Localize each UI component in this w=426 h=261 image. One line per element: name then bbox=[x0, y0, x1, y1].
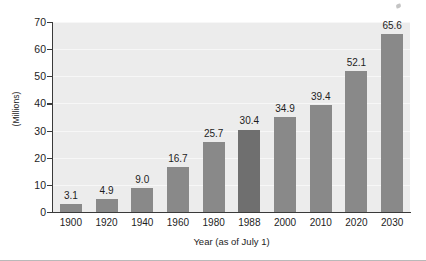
bar[interactable] bbox=[203, 142, 225, 212]
bar[interactable] bbox=[238, 130, 260, 213]
y-axis-tick bbox=[47, 76, 53, 77]
bar-value-label: 34.9 bbox=[261, 104, 309, 114]
bar-value-label: 52.1 bbox=[332, 58, 380, 68]
bar-value-label: 4.9 bbox=[83, 186, 131, 196]
bar[interactable] bbox=[381, 34, 403, 212]
x-axis-line bbox=[52, 212, 411, 213]
scan-artifact bbox=[395, 3, 401, 8]
y-axis-tick bbox=[47, 212, 53, 213]
bar-value-label: 9.0 bbox=[118, 175, 166, 185]
y-axis-tick bbox=[47, 131, 53, 132]
bar-value-label: 16.7 bbox=[154, 154, 202, 164]
bar[interactable] bbox=[167, 167, 189, 212]
x-axis-tick-label: 2030 bbox=[368, 218, 416, 228]
bar[interactable] bbox=[310, 105, 332, 212]
y-axis-tick bbox=[47, 103, 53, 104]
y-axis-tick bbox=[47, 49, 53, 50]
y-axis-title: (Millions) bbox=[11, 69, 21, 149]
y-axis-tick-label: 70 bbox=[16, 17, 46, 28]
y-axis-tick-label: 60 bbox=[16, 44, 46, 55]
y-axis-tick bbox=[47, 158, 53, 159]
bar[interactable] bbox=[131, 188, 153, 212]
bar-value-label: 30.4 bbox=[225, 116, 273, 126]
y-axis-tick-label: 0 bbox=[16, 207, 46, 218]
gridline bbox=[53, 22, 410, 23]
bar-value-label: 25.7 bbox=[190, 129, 238, 139]
bar-chart-figure: 010203040506070 (Millions) Year (as of J… bbox=[0, 0, 426, 261]
bar[interactable] bbox=[60, 204, 82, 212]
bar[interactable] bbox=[345, 71, 367, 212]
y-axis-tick bbox=[47, 185, 53, 186]
y-axis-tick-label: 10 bbox=[16, 180, 46, 191]
gridline bbox=[53, 49, 410, 50]
y-axis-tick-label: 20 bbox=[16, 153, 46, 164]
bar-value-label: 65.6 bbox=[368, 21, 416, 31]
y-axis-tick bbox=[47, 22, 53, 23]
bar[interactable] bbox=[274, 117, 296, 212]
x-axis-title: Year (as of July 1) bbox=[53, 236, 410, 247]
bar-value-label: 39.4 bbox=[297, 92, 345, 102]
bar[interactable] bbox=[96, 199, 118, 212]
